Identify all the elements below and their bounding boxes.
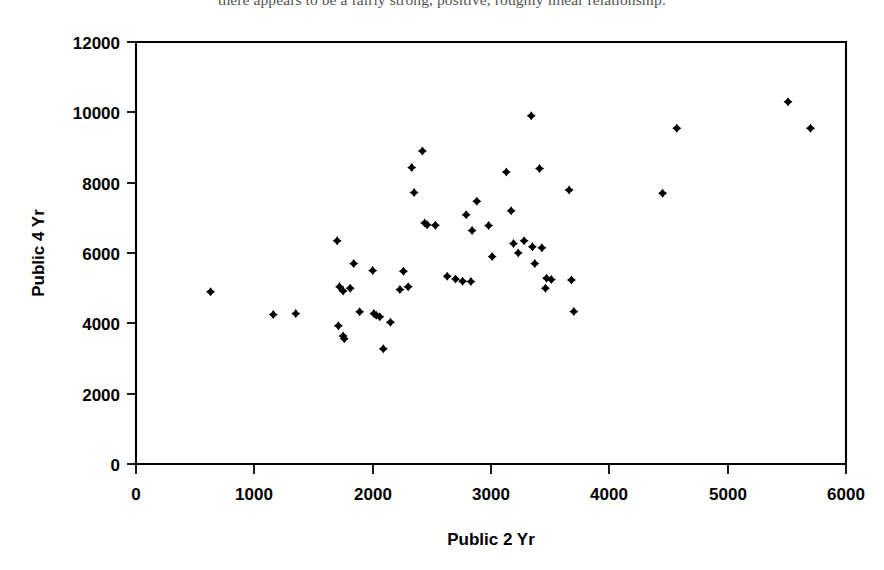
x-tick-label-4000: 4000 <box>590 485 628 504</box>
data-point <box>520 236 529 245</box>
data-point <box>443 272 452 281</box>
y-tick-label-6000: 6000 <box>82 245 120 264</box>
x-tick-label-6000: 6000 <box>827 485 865 504</box>
data-point <box>567 276 576 285</box>
data-point <box>410 188 419 197</box>
y-axis-tick-labels: 12000 10000 8000 6000 4000 2000 0 <box>73 34 120 475</box>
data-point <box>472 197 481 206</box>
scatter-plot-figure: there appears to be a fairly strong, pos… <box>0 0 884 570</box>
y-axis-title: Public 4 Yr <box>29 209 48 297</box>
data-point <box>206 287 215 296</box>
x-axis-tick-labels: 0 1000 2000 3000 4000 5000 6000 <box>131 485 865 504</box>
data-point <box>395 285 404 294</box>
data-point <box>537 243 546 252</box>
data-point <box>346 284 355 293</box>
data-point <box>462 210 471 219</box>
scatter-series-markers <box>206 97 815 353</box>
data-point <box>569 307 578 316</box>
data-point <box>528 242 537 251</box>
data-point <box>527 111 536 120</box>
data-point <box>565 186 574 195</box>
data-point <box>468 226 477 235</box>
data-point <box>541 284 550 293</box>
data-point <box>291 309 300 318</box>
data-point <box>379 344 388 353</box>
data-point <box>451 275 460 284</box>
data-point <box>672 124 681 133</box>
data-point <box>507 206 516 215</box>
data-point <box>458 277 467 286</box>
data-point <box>431 221 440 230</box>
data-point <box>333 236 342 245</box>
data-point <box>349 259 358 268</box>
data-point <box>488 252 497 261</box>
x-tick-label-5000: 5000 <box>709 485 747 504</box>
data-point <box>509 239 518 248</box>
data-point <box>514 249 523 258</box>
plot-canvas: 12000 10000 8000 6000 4000 2000 0 0 1000… <box>0 0 884 570</box>
data-point <box>399 267 408 276</box>
plot-frame <box>136 42 846 464</box>
data-point <box>418 147 427 156</box>
y-tick-label-4000: 4000 <box>82 315 120 334</box>
data-point <box>386 318 395 327</box>
data-point <box>484 221 493 230</box>
y-axis-ticks <box>127 42 136 464</box>
y-tick-label-10000: 10000 <box>73 104 120 123</box>
y-tick-label-2000: 2000 <box>82 386 120 405</box>
data-point <box>355 307 364 316</box>
data-point <box>530 259 539 268</box>
data-point <box>658 189 667 198</box>
y-tick-label-8000: 8000 <box>82 175 120 194</box>
data-point <box>334 321 343 330</box>
y-tick-label-0: 0 <box>111 456 120 475</box>
data-point <box>535 164 544 173</box>
data-point <box>404 282 413 291</box>
data-point <box>784 97 793 106</box>
data-point <box>806 124 815 133</box>
x-tick-label-2000: 2000 <box>354 485 392 504</box>
x-axis-ticks <box>136 464 846 474</box>
y-tick-label-12000: 12000 <box>73 34 120 53</box>
x-tick-label-1000: 1000 <box>235 485 273 504</box>
data-point <box>466 277 475 286</box>
data-point <box>269 310 278 319</box>
data-point <box>368 266 377 275</box>
data-point <box>502 168 511 177</box>
data-point <box>407 163 416 172</box>
x-tick-label-0: 0 <box>131 485 140 504</box>
x-tick-label-3000: 3000 <box>472 485 510 504</box>
x-axis-title: Public 2 Yr <box>447 530 535 549</box>
